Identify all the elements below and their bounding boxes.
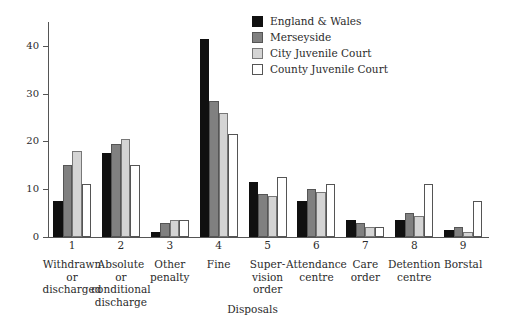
bar [365, 227, 375, 237]
y-axis-tick-label: 40 [26, 40, 39, 51]
bar [405, 213, 415, 237]
x-axis-title: Disposals [0, 303, 505, 315]
bar [473, 201, 483, 237]
bar [170, 220, 180, 237]
bar [277, 177, 287, 237]
bar [82, 184, 92, 237]
bar [200, 39, 210, 237]
x-axis-category: 9Borstal [430, 239, 496, 271]
bar [209, 101, 219, 237]
bar [249, 182, 259, 237]
bar [179, 220, 189, 237]
bar [414, 216, 424, 238]
bar [219, 113, 229, 237]
x-axis-category-number: 9 [430, 239, 496, 252]
bar [316, 192, 326, 237]
bar [307, 189, 317, 237]
bar [151, 232, 161, 237]
bar [121, 139, 131, 237]
bar [326, 184, 336, 237]
bar-chart-figure: England & WalesMerseysideCity Juvenile C… [0, 0, 505, 330]
bar [258, 194, 268, 237]
bar [424, 184, 434, 237]
bar [444, 230, 454, 237]
bar [53, 201, 63, 237]
bar [375, 227, 385, 237]
bar [395, 220, 405, 237]
x-axis-category-label: Borstal [430, 258, 496, 271]
bar [63, 165, 73, 237]
bar [111, 144, 121, 237]
x-axis-labels: 1Withdrawn or discharged2Absolute or con… [48, 239, 489, 301]
bar [454, 227, 464, 237]
bar [346, 220, 356, 237]
bar [72, 151, 82, 237]
bar [130, 165, 140, 237]
y-axis-tick-label: 20 [26, 135, 39, 146]
bar-series-container [49, 22, 489, 237]
y-axis-tick-label: 30 [26, 88, 39, 99]
bar [356, 223, 366, 237]
bar [160, 223, 170, 237]
bar [268, 196, 278, 237]
y-axis-tick: 0 [43, 237, 49, 238]
bar [297, 201, 307, 237]
plot-area: 010203040 [48, 22, 489, 237]
bar [102, 153, 112, 237]
y-axis-tick-label: 10 [26, 183, 39, 194]
bar [463, 232, 473, 237]
x-axis-line [48, 237, 489, 238]
bar [228, 134, 238, 237]
